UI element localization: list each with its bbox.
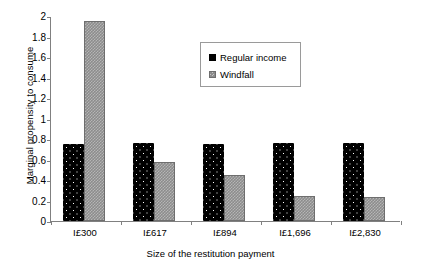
legend-label-regular-income: Regular income — [220, 52, 287, 63]
x-axis-tick — [121, 221, 122, 225]
y-axis-tick — [47, 99, 51, 100]
bar-group — [343, 143, 385, 221]
bar-windfall — [364, 197, 385, 221]
bar-group — [63, 21, 105, 221]
x-tick-label: I£1,696 — [260, 227, 330, 238]
x-tick-label: I£894 — [190, 227, 260, 238]
y-axis-tick — [47, 161, 51, 162]
bar-regular-income — [133, 143, 154, 221]
bar-windfall — [154, 162, 175, 221]
bar-windfall — [224, 175, 245, 221]
bar-windfall — [294, 196, 315, 221]
y-axis-tick — [47, 38, 51, 39]
x-tick-label: I£617 — [120, 227, 190, 238]
x-axis-tick — [191, 221, 192, 225]
y-tick-label: 0 — [20, 217, 46, 227]
bar-chart: Marginal propensity to consume 00.20.40.… — [0, 0, 421, 269]
y-tick-label: 1.2 — [20, 94, 46, 104]
y-tick-label: 0.8 — [20, 135, 46, 145]
bar-group — [273, 143, 315, 221]
y-axis-tick — [47, 202, 51, 203]
y-axis-tick — [47, 17, 51, 18]
x-axis-title: Size of the restitution payment — [0, 248, 421, 259]
bar-regular-income — [63, 144, 84, 221]
chart-legend: Regular income Windfall — [200, 42, 301, 87]
x-tick-label: I£300 — [50, 227, 120, 238]
windfall-swatch-icon — [209, 71, 216, 78]
regular-income-swatch-icon — [209, 54, 216, 61]
bar-windfall — [84, 21, 105, 221]
y-axis-tick — [47, 120, 51, 121]
y-axis-tick — [47, 79, 51, 80]
y-axis-tick — [47, 140, 51, 141]
y-tick-label: 0.2 — [20, 197, 46, 207]
y-tick-label: 0.4 — [20, 176, 46, 186]
bar-regular-income — [203, 144, 224, 221]
x-axis-tick — [261, 221, 262, 225]
legend-item-regular-income: Regular income — [209, 49, 300, 66]
bar-group — [133, 143, 175, 221]
bar-regular-income — [343, 143, 364, 221]
y-tick-label: 1.4 — [20, 74, 46, 84]
x-axis-tick — [331, 221, 332, 225]
x-tick-label: I£2,830 — [330, 227, 400, 238]
bar-group — [203, 144, 245, 221]
x-axis-tick — [51, 221, 52, 225]
legend-item-windfall: Windfall — [209, 66, 300, 83]
y-tick-label: 1.8 — [20, 33, 46, 43]
bar-regular-income — [273, 143, 294, 221]
y-tick-label: 1 — [20, 115, 46, 125]
y-axis-tick — [47, 181, 51, 182]
y-axis-tick — [47, 58, 51, 59]
y-tick-label: 2 — [20, 12, 46, 22]
x-axis-tick — [401, 221, 402, 225]
legend-label-windfall: Windfall — [220, 69, 254, 80]
y-tick-label: 0.6 — [20, 156, 46, 166]
y-axis-tick-labels: 00.20.40.60.811.21.41.61.82 — [16, 0, 46, 269]
y-tick-label: 1.6 — [20, 53, 46, 63]
